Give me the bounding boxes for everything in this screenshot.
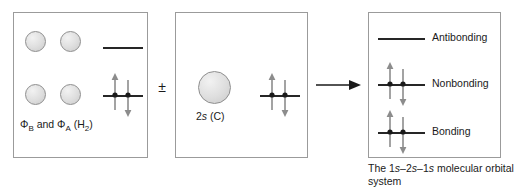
antibonding-label: Antibonding (432, 31, 487, 44)
orbital-phi-a-upper-icon (60, 31, 81, 52)
nonbonding-label: Nonbonding (432, 77, 489, 90)
orbital-carbon-2s-icon (198, 71, 231, 104)
bonding-electron-pair-icon (381, 109, 415, 155)
h2-electron-pair-icon (106, 72, 140, 118)
orbital-phi-a-lower-icon (60, 84, 81, 105)
plus-minus-operator-icon: ± (154, 79, 170, 95)
right-arrow-icon (316, 76, 362, 94)
orbital-phi-b-lower-icon (25, 84, 46, 105)
panel-carbon-2s-label: 2s (C) (196, 110, 225, 123)
orbital-phi-b-upper-icon (25, 31, 46, 52)
figure-caption: The 1s–2s–1s molecular orbital system (368, 162, 518, 188)
antibonding-level-line (378, 38, 425, 40)
bonding-label: Bonding (432, 125, 471, 138)
h2-upper-empty-level-line (103, 47, 143, 49)
molecular-orbital-figure: ΦB and ΦA (H2) ± 2s (C) (0, 0, 520, 195)
nonbonding-electron-pair-icon (381, 61, 415, 107)
panel-h2-label: ΦB and ΦA (H2) (20, 118, 93, 135)
carbon-2s-electron-pair-icon (263, 72, 297, 118)
